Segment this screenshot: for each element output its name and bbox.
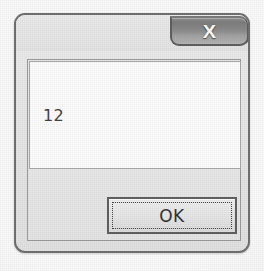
message-area: 12 <box>29 61 241 169</box>
ok-button-label: OK <box>159 206 185 226</box>
close-button[interactable]: X <box>170 16 249 46</box>
message-value-text: 12 <box>43 106 64 125</box>
dialog-window: X 12 OK <box>14 13 250 253</box>
title-bar: X <box>16 15 248 51</box>
content-panel: 12 OK <box>27 59 241 241</box>
button-strip: OK <box>28 171 240 240</box>
ok-button[interactable]: OK <box>107 197 237 234</box>
close-icon: X <box>203 22 216 41</box>
